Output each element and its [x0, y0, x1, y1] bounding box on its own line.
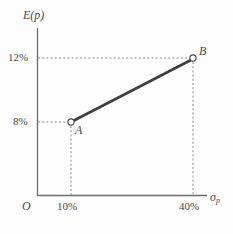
y-tick-label-8: 8% — [13, 116, 28, 127]
x-tick-label-40: 40% — [179, 201, 199, 212]
x-axis-title: σp — [210, 191, 220, 205]
x-axis-title-subscript: p — [216, 196, 220, 205]
data-point-b-marker — [190, 55, 196, 61]
guide-lines — [38, 58, 193, 195]
axis-lines — [37, 28, 207, 196]
plot-canvas — [0, 0, 233, 234]
data-line-segment-ab — [73, 60, 191, 121]
x-tick-label-10: 10% — [57, 201, 77, 212]
y-tick-label-12: 12% — [8, 52, 28, 63]
data-point-a-marker — [68, 119, 74, 125]
data-point-a-label: A — [75, 124, 82, 136]
data-point-b-label: B — [199, 45, 206, 57]
y-axis-title: E(p) — [23, 9, 44, 21]
origin-label: O — [22, 200, 31, 212]
chart-figure: E(p) σp O 12% 8% 10% 40% A B — [0, 0, 233, 234]
